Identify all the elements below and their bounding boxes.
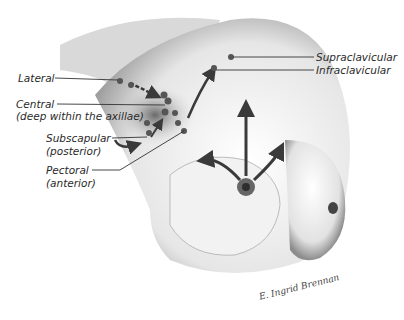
- anatomy-illustration: Lateral Central (deep within the axillae…: [0, 0, 404, 320]
- label-supraclavicular: Supraclavicular: [316, 51, 397, 63]
- label-subscapular: Subscapular: [46, 132, 111, 144]
- label-central: Central: [16, 98, 54, 110]
- label-pectoral-sub: (anterior): [46, 177, 96, 189]
- breast-drawing: [0, 0, 404, 320]
- label-subscapular-sub: (posterior): [46, 145, 101, 157]
- label-lateral: Lateral: [18, 72, 55, 84]
- label-central-sub: (deep within the axillae): [16, 110, 144, 122]
- label-infraclavicular: Infraclavicular: [316, 64, 391, 76]
- label-pectoral: Pectoral: [46, 164, 89, 176]
